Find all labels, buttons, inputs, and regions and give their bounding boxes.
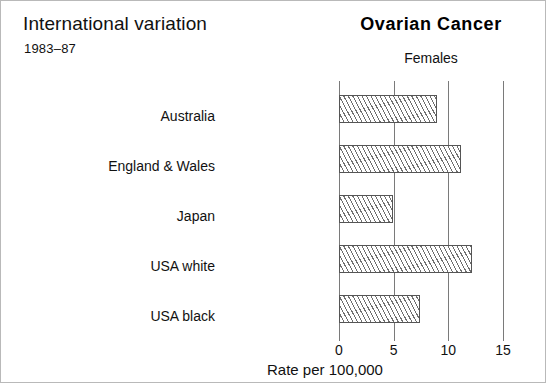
gridline-15: [503, 81, 504, 333]
chart-title: Ovarian Cancer: [331, 14, 531, 35]
x-axis-tick-labels: 051015: [339, 342, 529, 362]
bar: [339, 145, 461, 173]
page-title: International variation: [23, 13, 207, 35]
category-label: Japan: [0, 208, 215, 224]
bar: [339, 195, 393, 223]
category-label: USA white: [0, 258, 215, 274]
category-label: USA black: [0, 308, 215, 324]
category-label: England & Wales: [0, 158, 215, 174]
bar: [339, 245, 472, 273]
tick-label: 0: [319, 342, 359, 358]
plot-area: [339, 81, 503, 333]
year-range-label: 1983–87: [24, 41, 76, 56]
tick-label: 10: [428, 342, 468, 358]
category-label: Australia: [0, 108, 215, 124]
bar: [339, 295, 420, 323]
tick-label: 15: [483, 342, 523, 358]
tick-mark-15: [503, 333, 504, 341]
tick-label: 5: [374, 342, 414, 358]
gridline-10: [448, 81, 449, 333]
tick-mark-5: [394, 333, 395, 341]
tick-mark-10: [448, 333, 449, 341]
x-axis-title: Rate per 100,000: [267, 361, 383, 378]
chart-subtitle: Females: [331, 50, 531, 66]
chart-figure: International variation 1983–87 Ovarian …: [0, 0, 546, 383]
bar: [339, 95, 437, 123]
tick-mark-0: [339, 333, 340, 341]
